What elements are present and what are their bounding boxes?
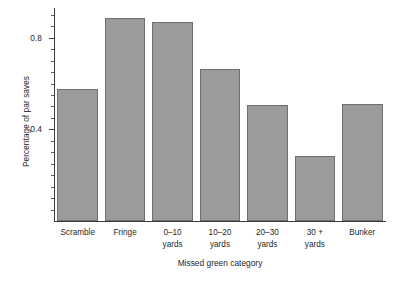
bar xyxy=(105,18,146,221)
x-axis-tick-label-line: Bunker xyxy=(339,227,386,239)
bar xyxy=(57,89,98,221)
y-axis-minor-tick xyxy=(51,175,54,176)
y-axis-minor-tick xyxy=(51,49,54,50)
bar-chart-figure: Percentage of par saves 0.40.8 ScrambleF… xyxy=(0,0,406,284)
y-axis-minor-tick xyxy=(51,72,54,73)
bar xyxy=(152,22,193,221)
x-axis-tick-label-line: 30 + xyxy=(291,227,338,239)
y-axis-minor-tick xyxy=(51,164,54,165)
x-axis-tick-label-line: yards xyxy=(244,239,291,251)
x-axis-tick-label-line: Fringe xyxy=(101,227,148,239)
bar xyxy=(295,156,336,221)
x-axis-tick-label: 0–10yards xyxy=(149,227,196,250)
x-axis-tick-label-line: yards xyxy=(196,239,243,251)
y-axis-minor-tick xyxy=(51,210,54,211)
y-axis-major-tick: 0.8 xyxy=(49,38,54,39)
y-axis-minor-tick xyxy=(51,152,54,153)
y-axis-spine xyxy=(54,8,55,221)
y-axis-major-tick: 0.4 xyxy=(49,129,54,130)
x-axis-tick-label: Fringe xyxy=(101,227,148,239)
y-axis-minor-tick xyxy=(51,95,54,96)
x-axis-title: Missed green category xyxy=(54,258,386,268)
y-axis-minor-tick xyxy=(51,61,54,62)
bar xyxy=(200,69,241,221)
y-axis-minor-tick xyxy=(51,26,54,27)
x-axis-tick-label: 10–20yards xyxy=(196,227,243,250)
x-axis-tick-label: Bunker xyxy=(339,227,386,239)
x-axis-tick-label-line: Scramble xyxy=(54,227,101,239)
x-axis-spine xyxy=(54,221,386,222)
x-axis-tick-label-line: 20–30 xyxy=(244,227,291,239)
plot-area: 0.40.8 ScrambleFringe0–10yards10–20yards… xyxy=(54,8,386,221)
y-axis-minor-tick xyxy=(51,198,54,199)
x-axis-tick-label-line: yards xyxy=(291,239,338,251)
x-axis-tick-label-line: 0–10 xyxy=(149,227,196,239)
y-axis-minor-tick xyxy=(51,141,54,142)
y-axis-tick-label: 0.4 xyxy=(30,124,42,134)
x-axis-tick-label: Scramble xyxy=(54,227,101,239)
y-axis-minor-tick xyxy=(51,84,54,85)
x-axis-tick-label-line: 10–20 xyxy=(196,227,243,239)
bar xyxy=(342,104,383,221)
x-axis-tick-label: 20–30yards xyxy=(244,227,291,250)
y-axis-title: Percentage of par saves xyxy=(22,27,31,217)
y-axis-minor-tick xyxy=(51,15,54,16)
x-axis-tick-label: 30 +yards xyxy=(291,227,338,250)
y-axis-minor-tick xyxy=(51,187,54,188)
y-axis-minor-tick xyxy=(51,118,54,119)
bar xyxy=(247,105,288,221)
x-axis-tick-label-line: yards xyxy=(149,239,196,251)
y-axis-minor-tick xyxy=(51,106,54,107)
y-axis-tick-label: 0.8 xyxy=(30,33,42,43)
